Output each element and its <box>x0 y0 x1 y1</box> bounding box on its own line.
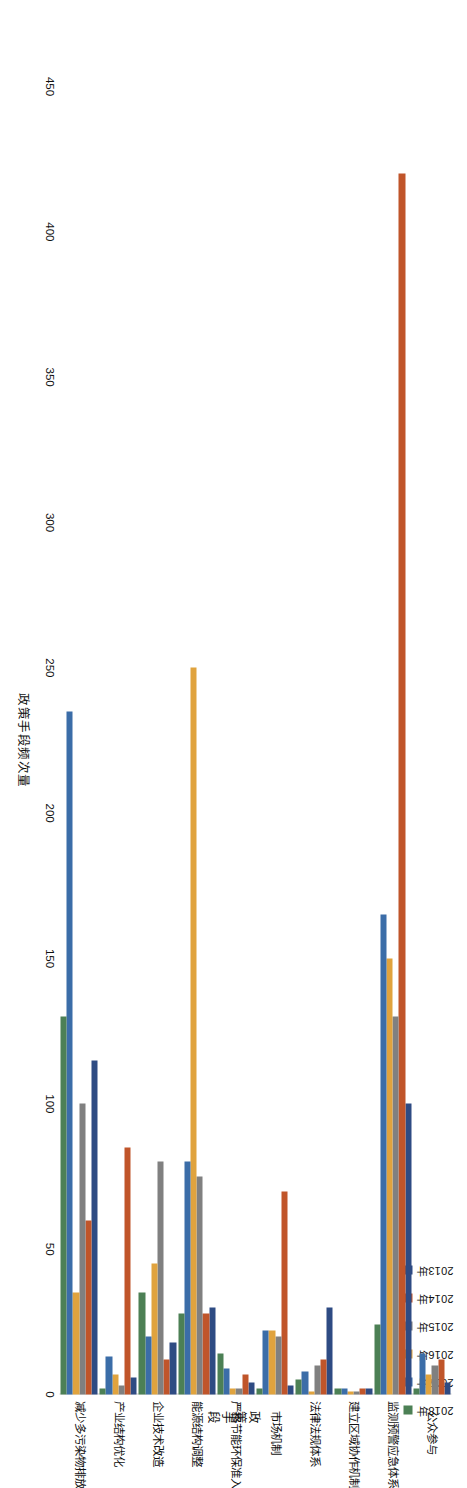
bar[interactable] <box>196 1176 202 1394</box>
bar[interactable] <box>138 1292 144 1394</box>
bar[interactable] <box>163 1359 169 1394</box>
legend-swatch-icon <box>403 1405 412 1414</box>
bar[interactable] <box>190 667 196 1394</box>
bar[interactable] <box>242 1374 248 1394</box>
bar[interactable] <box>217 1353 223 1394</box>
bar[interactable] <box>145 1336 151 1394</box>
bar-slot <box>413 86 419 1394</box>
value-axis-tick: 100 <box>43 1094 55 1113</box>
bar-slot <box>398 86 404 1394</box>
bar[interactable] <box>275 1336 281 1394</box>
category-label: 市场机制 <box>268 1400 281 1464</box>
bar-slot <box>202 86 208 1394</box>
bar[interactable] <box>392 1016 398 1394</box>
bar[interactable] <box>229 1388 235 1394</box>
bar[interactable] <box>262 1330 268 1394</box>
bar-slot <box>374 86 380 1394</box>
bar[interactable] <box>60 1016 66 1394</box>
bar[interactable] <box>268 1330 274 1394</box>
bar[interactable] <box>178 1313 184 1394</box>
bar-slot <box>444 86 450 1394</box>
bar[interactable] <box>85 1220 91 1394</box>
bar[interactable] <box>326 1307 332 1394</box>
bar-slot <box>196 86 202 1394</box>
bar-slot <box>392 86 398 1394</box>
bar-slot <box>341 86 347 1394</box>
bar[interactable] <box>320 1359 326 1394</box>
bar[interactable] <box>99 1388 105 1394</box>
bar-slot <box>326 86 332 1394</box>
category-label: 建立区域协作机制 <box>347 1400 360 1464</box>
bar[interactable] <box>287 1385 293 1394</box>
bar[interactable] <box>157 1161 163 1394</box>
bar[interactable] <box>79 1103 85 1394</box>
bar-slot <box>334 86 340 1394</box>
value-axis-tick: 400 <box>43 222 55 241</box>
bar[interactable] <box>235 1388 241 1394</box>
bar[interactable] <box>209 1307 215 1394</box>
bar[interactable] <box>353 1391 359 1394</box>
bar-stack <box>412 86 451 1394</box>
bar[interactable] <box>118 1385 124 1394</box>
bar-slot <box>112 86 118 1394</box>
bar-group: 市场机制 <box>255 86 294 1394</box>
bar[interactable] <box>374 1324 380 1394</box>
bar-slot <box>130 86 136 1394</box>
bar[interactable] <box>256 1388 262 1394</box>
bar[interactable] <box>386 958 392 1394</box>
bar[interactable] <box>359 1388 365 1394</box>
value-axis-tick: 450 <box>43 76 55 95</box>
bar-stack <box>177 86 216 1394</box>
bar[interactable] <box>438 1359 444 1394</box>
bar[interactable] <box>398 173 404 1394</box>
bar[interactable] <box>105 1356 111 1394</box>
bar[interactable] <box>169 1342 175 1394</box>
bar-group: 减少多污染物排放 <box>59 86 98 1394</box>
bar[interactable] <box>341 1388 347 1394</box>
bar-slot <box>118 86 124 1394</box>
bar-slot <box>365 86 371 1394</box>
bar[interactable] <box>314 1365 320 1394</box>
bar-slot <box>229 86 235 1394</box>
bar[interactable] <box>295 1379 301 1394</box>
bar[interactable] <box>308 1391 314 1394</box>
bar[interactable] <box>151 1263 157 1394</box>
value-axis: 050100150200250300350400450 <box>33 86 55 1394</box>
bar[interactable] <box>130 1377 136 1394</box>
bar[interactable] <box>444 1382 450 1394</box>
bar-slot <box>431 86 437 1394</box>
bar-group: 法律法规体系 <box>294 86 333 1394</box>
bar-slot <box>157 86 163 1394</box>
plot-area: 公众参与监测预警应急体系建立区域协作机制法律法规体系市场机制严格节能环保准入能源… <box>59 86 451 1394</box>
bar[interactable] <box>334 1388 340 1394</box>
bar-slot <box>380 86 386 1394</box>
bar[interactable] <box>91 1060 97 1394</box>
bar-stack <box>255 86 294 1394</box>
bar[interactable] <box>112 1374 118 1394</box>
bar[interactable] <box>365 1388 371 1394</box>
bar[interactable] <box>419 1353 425 1394</box>
bar-slot <box>145 86 151 1394</box>
bar[interactable] <box>413 1388 419 1394</box>
bar-stack <box>59 86 98 1394</box>
bar[interactable] <box>202 1313 208 1394</box>
bar[interactable] <box>281 1191 287 1394</box>
bar[interactable] <box>380 914 386 1394</box>
bar[interactable] <box>425 1374 431 1394</box>
bar[interactable] <box>184 1161 190 1394</box>
bar[interactable] <box>405 1103 411 1394</box>
bar-slot <box>217 86 223 1394</box>
bar[interactable] <box>301 1371 307 1394</box>
bar[interactable] <box>223 1368 229 1394</box>
bar-slot <box>184 86 190 1394</box>
bar[interactable] <box>72 1292 78 1394</box>
bar[interactable] <box>431 1365 437 1394</box>
bar[interactable] <box>66 711 72 1394</box>
bar[interactable] <box>248 1382 254 1394</box>
bar-slot <box>190 86 196 1394</box>
bar-slot <box>353 86 359 1394</box>
bar[interactable] <box>347 1391 353 1394</box>
bar[interactable] <box>124 1147 130 1394</box>
bar-slot <box>138 86 144 1394</box>
